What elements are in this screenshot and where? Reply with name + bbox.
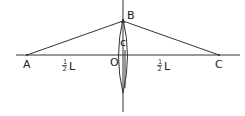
lens-ray-diagram: A C B O c 1 2 L 1 2 L [0,0,245,116]
ray-a-to-b [27,21,123,55]
svg-text:L: L [69,60,76,73]
label-b: B [127,9,135,22]
right-distance-label: 1 2 L [157,58,171,73]
label-lens-center: c [120,36,126,49]
point-c-marker [218,54,220,56]
svg-text:2: 2 [158,65,162,73]
label-c: C [215,58,223,71]
svg-text:L: L [164,60,171,73]
left-distance-label: 1 2 L [62,58,76,73]
svg-text:2: 2 [63,65,67,73]
point-a-marker [26,54,28,56]
point-b-marker [121,18,125,23]
label-o: O [110,56,119,69]
label-a: A [23,58,31,71]
ray-b-to-c [123,21,219,55]
